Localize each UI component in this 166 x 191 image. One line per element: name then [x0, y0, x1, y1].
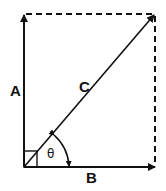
vector-diagram: [0, 0, 166, 191]
label-a: A: [10, 83, 21, 98]
angle-arc: [54, 135, 69, 166]
label-b: B: [86, 170, 97, 185]
label-c: C: [79, 79, 90, 94]
label-theta: θ: [47, 148, 54, 160]
